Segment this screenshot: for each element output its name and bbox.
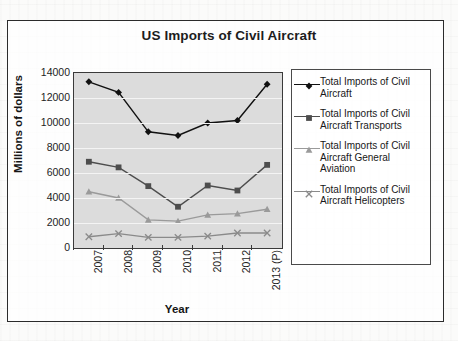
y-tick-label: 6000 xyxy=(26,167,70,177)
x-tick-mark xyxy=(222,245,223,250)
chart-legend: Total Imports of Civil AircraftTotal Imp… xyxy=(291,69,431,265)
y-tick-label: 14000 xyxy=(26,67,70,77)
x-tick-mark xyxy=(251,245,252,250)
plot-series-svg xyxy=(74,73,282,248)
x-axis-ticks: 2007200820092010201120122013 (P) xyxy=(73,250,281,306)
gridline xyxy=(74,173,282,174)
legend-label: Total Imports of Civil Aircraft General … xyxy=(320,140,426,175)
x-tick-mark xyxy=(73,245,74,250)
data-point-marker xyxy=(205,183,211,189)
x-tick-mark xyxy=(103,245,104,250)
y-tick-label: 2000 xyxy=(26,217,70,227)
y-axis-ticks: 14000120001000080006000400020000 xyxy=(20,72,70,247)
x-tick-label: 2009 xyxy=(151,250,163,273)
chart-title: US Imports of Civil Aircraft xyxy=(0,28,458,43)
data-point-marker xyxy=(85,78,92,85)
legend-item[interactable]: Total Imports of Civil Aircraft Helicopt… xyxy=(294,184,426,207)
data-point-marker xyxy=(175,132,182,139)
legend-item[interactable]: Total Imports of Civil Aircraft xyxy=(294,76,426,99)
data-point-marker xyxy=(85,188,92,194)
data-point-marker xyxy=(145,183,151,189)
x-tick-label: 2013 (P) xyxy=(270,250,282,290)
data-point-marker xyxy=(86,159,92,165)
legend-label: Total Imports of Civil Aircraft Transpor… xyxy=(320,108,426,131)
x-tick-label: 2012 xyxy=(240,250,252,273)
x-tick-label: 2011 xyxy=(211,250,223,273)
data-point-marker xyxy=(264,162,270,168)
plot-area xyxy=(73,72,283,249)
x-tick-label: 2008 xyxy=(122,250,134,273)
x-axis-title: Year xyxy=(73,303,281,315)
x-tick-label: 2010 xyxy=(181,250,193,273)
y-tick-label: 4000 xyxy=(26,192,70,202)
legend-item[interactable]: Total Imports of Civil Aircraft General … xyxy=(294,140,426,175)
x-tick-label: 2007 xyxy=(92,250,104,273)
data-point-marker xyxy=(175,204,181,210)
y-tick-label: 12000 xyxy=(26,92,70,102)
gridline xyxy=(74,98,282,99)
gridline xyxy=(74,123,282,124)
data-point-marker xyxy=(116,164,122,170)
y-tick-label: 8000 xyxy=(26,142,70,152)
legend-marker-icon xyxy=(294,186,320,198)
y-tick-label: 0 xyxy=(26,242,70,252)
legend-label: Total Imports of Civil Aircraft Helicopt… xyxy=(320,184,426,207)
legend-marker-icon xyxy=(294,110,320,122)
data-point-marker xyxy=(235,188,241,194)
legend-label: Total Imports of Civil Aircraft xyxy=(320,76,426,99)
x-tick-mark xyxy=(192,245,193,250)
y-tick-label: 10000 xyxy=(26,117,70,127)
gridline xyxy=(74,223,282,224)
legend-marker-icon xyxy=(294,78,320,90)
legend-marker-icon xyxy=(294,142,320,154)
series-line xyxy=(89,82,267,136)
gridline xyxy=(74,148,282,149)
legend-item[interactable]: Total Imports of Civil Aircraft Transpor… xyxy=(294,108,426,131)
x-tick-mark xyxy=(162,245,163,250)
x-tick-mark xyxy=(132,245,133,250)
gridline xyxy=(74,198,282,199)
